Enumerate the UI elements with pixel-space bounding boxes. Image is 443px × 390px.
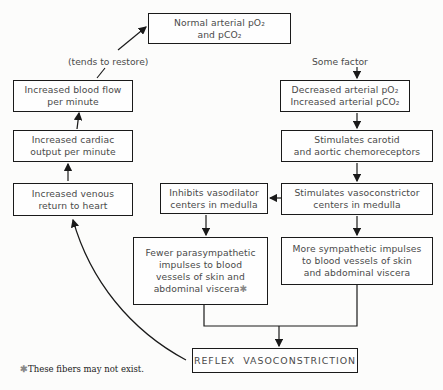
box-text: More sympathetic impulses bbox=[293, 243, 422, 255]
asterisk-marker-icon: ✱ bbox=[20, 364, 28, 374]
box-text: Stimulates carotid bbox=[314, 134, 400, 146]
box-text: output per minute bbox=[30, 146, 116, 158]
box-normal-arterial: Normal arterial pO₂ and pCO₂ bbox=[148, 13, 291, 44]
box-text: Increased cardiac bbox=[32, 134, 115, 146]
box-text: vessels of skin and bbox=[156, 271, 245, 283]
box-text: centers in medulla bbox=[313, 199, 400, 211]
box-increased-cardiac-output: Increased cardiac output per minute bbox=[13, 130, 133, 162]
box-text: and aortic chemoreceptors bbox=[294, 146, 421, 158]
box-inhibits-vasodilator: Inhibits vasodilator centers in medulla bbox=[160, 183, 268, 214]
box-text: abdominal viscera bbox=[154, 283, 240, 294]
box-text: Normal arterial pO₂ bbox=[174, 17, 265, 29]
box-reflex-vasoconstriction: REFLEX VASOCONSTRICTION bbox=[192, 348, 358, 373]
box-text: Stimulates vasoconstrictor bbox=[294, 187, 419, 199]
box-text: per minute bbox=[47, 96, 99, 108]
box-decreased-arterial: Decreased arterial pO₂ Increased arteria… bbox=[280, 80, 410, 112]
box-more-sympathetic: More sympathetic impulses to blood vesse… bbox=[281, 237, 433, 285]
box-stimulates-vasoconstrictor: Stimulates vasoconstrictor centers in me… bbox=[281, 183, 433, 215]
box-text-line4: abdominal viscera✱ bbox=[154, 283, 248, 295]
label-tends-to-restore: (tends to restore) bbox=[68, 56, 148, 67]
box-text: and abdominal viscera bbox=[304, 267, 411, 279]
asterisk-marker-icon: ✱ bbox=[240, 283, 248, 294]
box-text: Increased blood flow bbox=[25, 84, 122, 96]
footnote-text: These fibers may not exist. bbox=[28, 364, 144, 374]
box-text: Increased arterial pCO₂ bbox=[290, 96, 399, 108]
reflex-vasoconstriction-diagram: Normal arterial pO₂ and pCO₂ (tends to r… bbox=[0, 0, 443, 390]
footnote: ✱These fibers may not exist. bbox=[20, 364, 144, 374]
box-text: Inhibits vasodilator bbox=[169, 187, 259, 199]
label-some-factor: Some factor bbox=[312, 56, 368, 67]
box-text: Fewer parasympathetic bbox=[145, 247, 255, 259]
box-text: impulses to blood bbox=[159, 259, 242, 271]
box-text: REFLEX VASOCONSTRICTION bbox=[194, 355, 356, 367]
box-increased-blood-flow: Increased blood flow per minute bbox=[13, 80, 133, 112]
box-text: Increased venous bbox=[32, 188, 114, 200]
box-text: Decreased arterial pO₂ bbox=[292, 84, 399, 96]
box-stimulates-chemoreceptors: Stimulates carotid and aortic chemorecep… bbox=[281, 130, 433, 162]
box-text: centers in medulla bbox=[170, 199, 257, 211]
box-text: to blood vessels of skin bbox=[302, 255, 412, 267]
box-text: and pCO₂ bbox=[197, 29, 241, 41]
box-text: return to heart bbox=[38, 200, 107, 212]
box-fewer-parasympathetic: Fewer parasympathetic impulses to blood … bbox=[133, 237, 268, 305]
box-increased-venous-return: Increased venous return to heart bbox=[13, 183, 133, 216]
